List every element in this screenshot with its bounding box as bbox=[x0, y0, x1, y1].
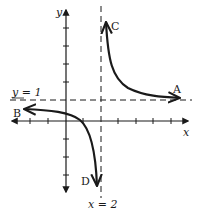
y-axis-label: y bbox=[55, 6, 63, 19]
curve-label-d: D bbox=[81, 175, 90, 188]
vertical-asymptote-label: x = 2 bbox=[88, 198, 117, 211]
horizontal-asymptote-label: y = 1 bbox=[11, 86, 41, 99]
curve-label-b: B bbox=[13, 107, 21, 120]
lower-left-branch: B D bbox=[13, 107, 97, 188]
curve-label-a: A bbox=[172, 83, 182, 96]
curve-label-c: C bbox=[111, 20, 119, 33]
x-axis-label: x bbox=[183, 126, 190, 139]
hyperbola-graph: x y y = 1 x = 2 C A B D bbox=[0, 0, 198, 212]
vertical-asymptote: x = 2 bbox=[88, 6, 117, 211]
y-axis: y bbox=[55, 6, 69, 192]
upper-right-branch: C A bbox=[106, 20, 182, 98]
